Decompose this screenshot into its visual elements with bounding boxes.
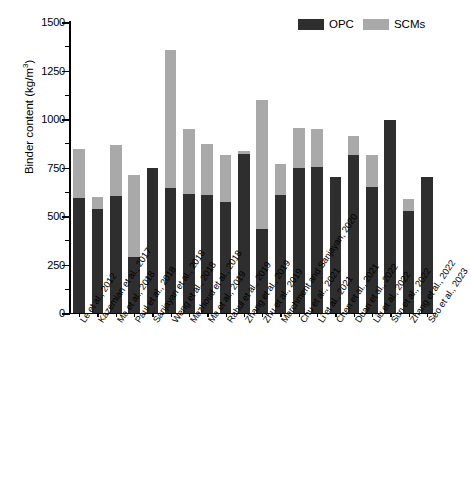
bar-series-group [70, 22, 436, 313]
bar-segment-scms [128, 175, 140, 257]
bar-segment-scms [92, 197, 104, 210]
bar-segment-scms [73, 149, 85, 198]
y-axis-title-tail: ) [23, 60, 35, 64]
bar-segment-scms [201, 144, 213, 195]
bar-segment-scms [403, 199, 415, 211]
y-axis-title-exponent: 3 [21, 64, 30, 68]
y-tick-label: 500 [47, 211, 65, 222]
y-tick-label: 1250 [41, 65, 65, 76]
y-axis-title-text: Binder content (kg/m [23, 68, 35, 174]
bar-segment-scms [183, 129, 195, 194]
y-tick-label: 750 [47, 162, 65, 173]
bar-segment-scms [348, 136, 360, 154]
bar-segment-scms [256, 100, 268, 229]
y-tick-label: 1500 [41, 17, 65, 28]
bar-segment-scms [275, 164, 287, 195]
y-tick-label: 250 [47, 259, 65, 270]
y-tick-label: 0 [59, 308, 65, 319]
bar-segment-scms [165, 50, 177, 189]
y-axis-title: Binder content (kg/m3) [21, 17, 35, 217]
bar-segment-opc [73, 198, 85, 313]
bar-stack [73, 149, 85, 313]
bar-segment-scms [311, 129, 323, 167]
bar-segment-scms [110, 145, 122, 196]
y-tick-label: 1000 [41, 114, 65, 125]
bar-segment-scms [366, 155, 378, 187]
bar-segment-scms [293, 128, 305, 168]
bar-segment-scms [220, 155, 232, 203]
